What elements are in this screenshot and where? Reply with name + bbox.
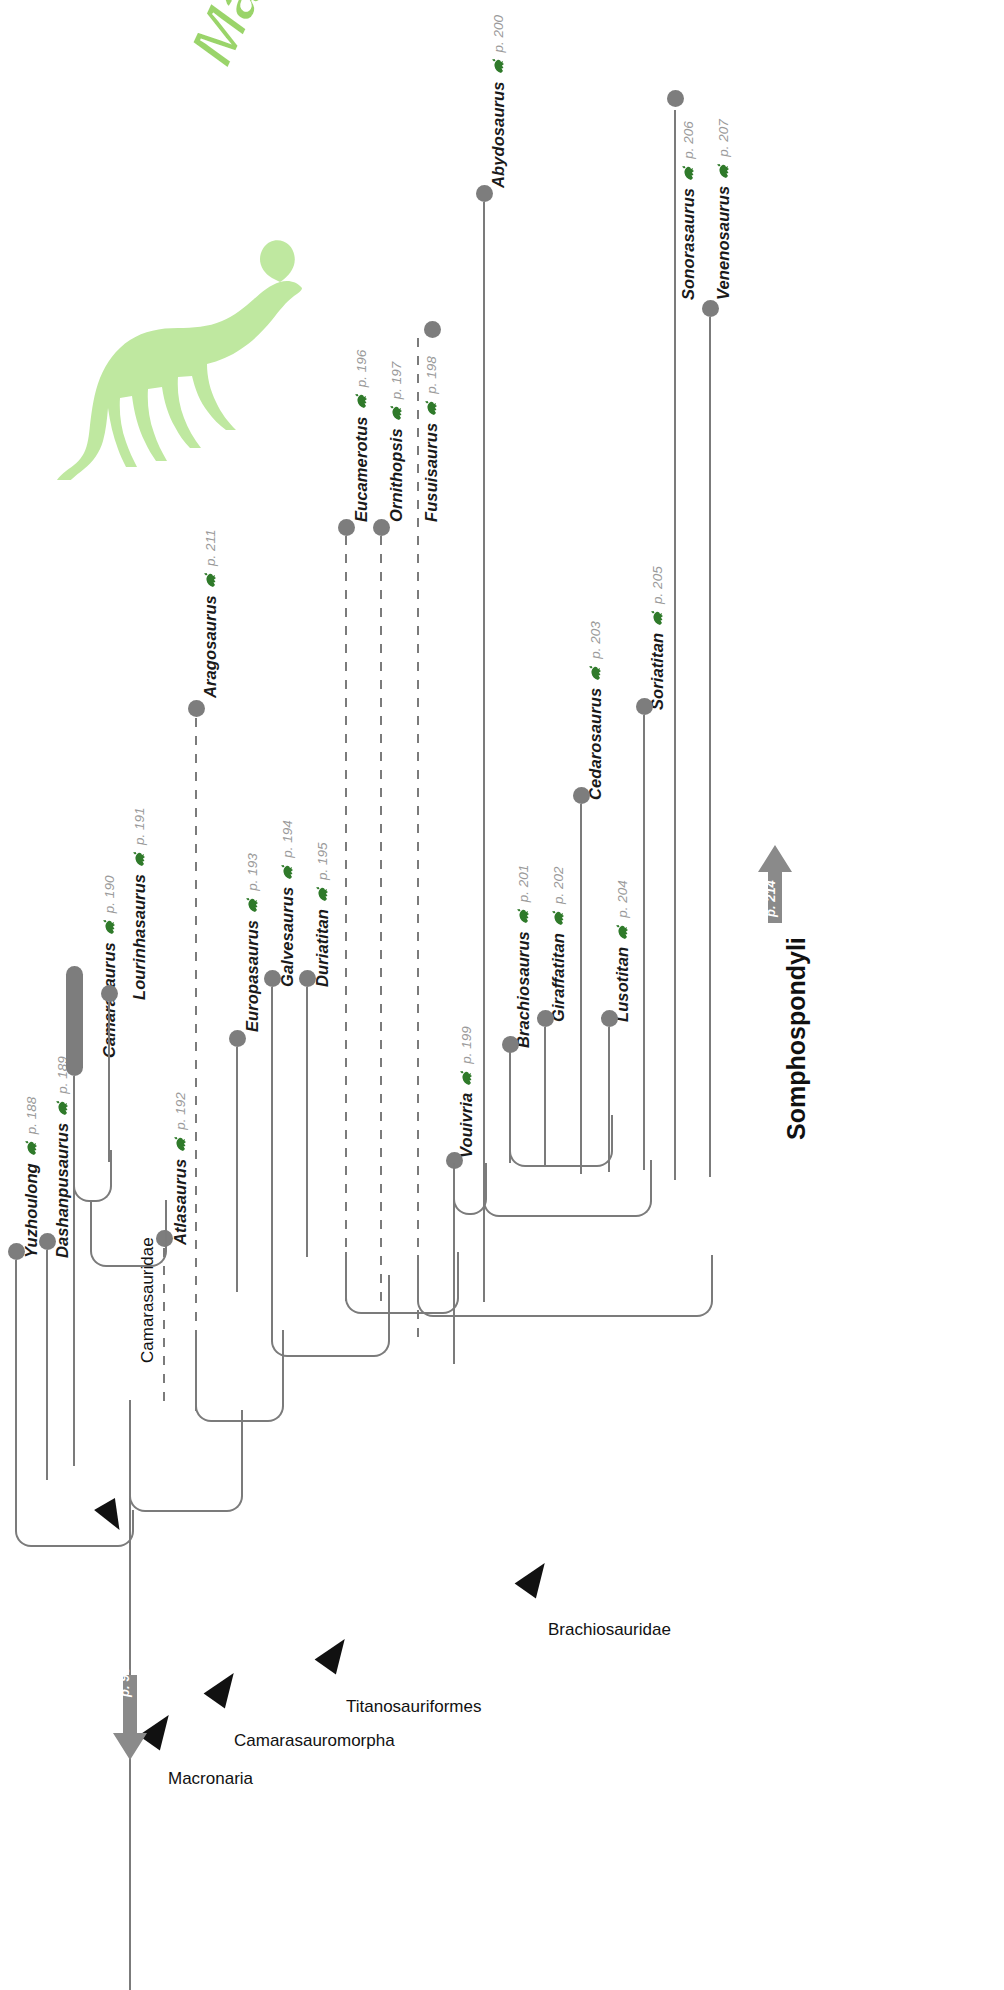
clade-bracket-camarasauridae: [73, 1150, 112, 1202]
page-reference: p. 193: [245, 853, 260, 891]
page-arrow-label: p. 214: [763, 880, 778, 917]
page-reference: p. 192: [173, 1092, 188, 1130]
branch-eucamerotus-dashed: [345, 536, 347, 1306]
tip-label-fusuisaurus: Fusuisaurus p. 198: [422, 356, 441, 522]
page-reference: p. 207: [716, 119, 731, 157]
figure-title: Macronaria: [175, 0, 378, 75]
pointer-arrow-titanosauriformes: [315, 1632, 356, 1675]
dinosaur-icon: [280, 864, 295, 881]
dinosaur-icon: [551, 910, 566, 927]
tip-label-abydosaurus: Abydosaurus p. 200: [489, 15, 508, 188]
tip-label-venenosaurus: Venenosaurus p. 207: [714, 119, 733, 300]
branch-soriatitan: [643, 715, 645, 1170]
taxon-name: Vouivria: [457, 1093, 476, 1158]
taxon-name: Duriatitan: [313, 909, 332, 987]
dinosaur-icon: [615, 924, 630, 941]
tip-label-vouivria: Vouivria p. 199: [457, 1026, 476, 1158]
taxon-name: Galvesaurus: [278, 887, 297, 987]
node-dot-dashanpusaurus: [39, 1233, 56, 1250]
tip-label-cedarosaurus: Cedarosaurus p. 203: [586, 621, 605, 800]
tip-label-galvesaurus: Galvesaurus p. 194: [278, 820, 297, 987]
dinosaur-icon: [459, 1070, 474, 1087]
taxon-name: Ornithopsis: [387, 428, 406, 522]
tip-label-dashanpusaurus: Dashanpusaurus p. 189: [53, 1056, 72, 1258]
page-arrow-somphospondyli[interactable]: p. 214: [758, 845, 792, 923]
taxon-name: Brachiosaurus: [514, 931, 533, 1048]
pointer-arrow-brachiosauridae: [515, 1556, 556, 1599]
dinosaur-icon: [245, 897, 260, 914]
tip-label-ornithopsis: Ornithopsis p. 197: [387, 362, 406, 522]
dinosaur-icon: [716, 163, 731, 180]
branch-aragosaurus-dashed: [195, 718, 197, 1418]
pointer-arrow-camarasauromorpha: [204, 1666, 245, 1709]
dinosaur-icon: [424, 400, 439, 417]
tip-label-duriatitan: Duriatitan p. 195: [313, 842, 332, 987]
node-dot-aragosaurus: [188, 700, 205, 717]
branch-europasaurus: [236, 1047, 238, 1292]
node-dot-cedarosaurus: [573, 787, 590, 804]
clade-label-brachiosauridae: Brachiosauridae: [548, 1620, 671, 1640]
taxon-name: Yuzhoulong: [22, 1163, 41, 1258]
tip-label-atlasaurus: Atlasaurus p. 192: [171, 1092, 190, 1245]
page-reference: p. 197: [389, 362, 404, 400]
dinosaur-icon: [132, 851, 147, 868]
dinosaur-icon: [681, 165, 696, 182]
tip-label-sonorasaurus: Sonorasaurus p. 206: [679, 121, 698, 300]
tip-label-eucamerotus: Eucamerotus p. 196: [352, 350, 371, 522]
tip-label-giraffatitan: Giraffatitan p. 202: [549, 867, 568, 1022]
dinosaur-icon: [102, 919, 117, 936]
page-arrow-label: p. 96: [117, 1667, 132, 1697]
node-dot-abydosaurus: [476, 185, 493, 202]
taxon-name: Lourinhasaurus: [130, 874, 149, 1000]
branch-atlasaurus-dashed: [163, 1248, 165, 1408]
taxon-name: Dashanpusaurus: [53, 1123, 72, 1258]
taxon-name: Cedarosaurus: [586, 688, 605, 800]
taxon-name: Giraffatitan: [549, 933, 568, 1022]
page-reference: p. 195: [315, 842, 330, 880]
dinosaur-icon: [173, 1136, 188, 1153]
node-dot-eucamerotus: [338, 519, 355, 536]
page-reference: p. 194: [280, 820, 295, 858]
node-dot-venenosaurus: [702, 300, 719, 317]
clade-bracket-brachiosauridae-core: [483, 1160, 652, 1217]
page-reference: p. 188: [24, 1097, 39, 1135]
taxon-name: Europasaurus: [243, 920, 262, 1032]
page-reference: p. 205: [650, 566, 665, 604]
sauropod-silhouette: [40, 180, 320, 480]
branch-camarasaurus: [73, 1076, 75, 1466]
node-dot-lourinhasaurus: [101, 985, 118, 1002]
page-reference: p. 198: [424, 356, 439, 394]
taxon-name: Abydosaurus: [489, 81, 508, 188]
dinosaur-icon: [491, 58, 506, 75]
dinosaur-icon: [55, 1100, 70, 1117]
clade-label-camarasauromorpha: Camarasauromorpha: [234, 1731, 395, 1751]
page-reference: p. 201: [516, 865, 531, 903]
page-reference: p. 196: [354, 350, 369, 388]
node-capsule-camarasaurus: [66, 966, 83, 1076]
dinosaur-icon: [24, 1140, 39, 1157]
page-arrow-root[interactable]: p. 96: [113, 1675, 147, 1760]
dinosaur-icon: [389, 405, 404, 422]
node-dot-ornithopsis: [373, 519, 390, 536]
branch-dashanpusaurus: [46, 1250, 48, 1480]
clade-label-camarasauridae: Camarasauridae: [138, 1237, 158, 1363]
tip-label-lourinhasaurus: Lourinhasaurus p. 191: [130, 807, 149, 1000]
page-reference: p. 204: [615, 880, 630, 918]
branch-lourinhasaurus: [108, 1002, 110, 1162]
taxon-name: Lusotitan: [613, 947, 632, 1022]
page-reference: p. 211: [203, 530, 218, 567]
dinosaur-icon: [203, 572, 218, 589]
clade-bracket-brachiosauridae: [453, 1163, 487, 1215]
clade-bracket-somphospondyli: [509, 1115, 613, 1167]
page-reference: p. 203: [588, 621, 603, 659]
clade-bracket-brachiosauridae-outer: [417, 1255, 713, 1317]
node-dot-fusuisaurus: [424, 321, 441, 338]
node-dot-soriatitan: [636, 698, 653, 715]
taxon-name: Soriatitan: [648, 633, 667, 710]
node-dot-duriatitan: [299, 970, 316, 987]
tip-label-brachiosaurus: Brachiosaurus p. 201: [514, 865, 533, 1048]
page-reference: p. 199: [459, 1026, 474, 1064]
page-reference: p. 200: [491, 15, 506, 53]
taxon-name: Venenosaurus: [714, 186, 733, 300]
node-dot-galvesaurus: [264, 970, 281, 987]
